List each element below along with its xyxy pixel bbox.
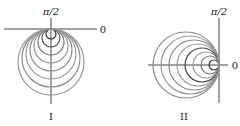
caption-II: II: [180, 111, 188, 122]
zero-label-I: 0: [100, 24, 106, 35]
pi-half-label-II: π/2: [210, 6, 227, 17]
figure-I: π/2 0 I: [4, 6, 106, 122]
pi-half-label-I: π/2: [42, 6, 59, 17]
caption-I: I: [49, 111, 53, 122]
polar-diagrams: π/2 0 I π/2 0 II: [0, 0, 240, 126]
figure-II: π/2 0 II: [148, 6, 238, 122]
zero-label-II: 0: [232, 60, 238, 71]
